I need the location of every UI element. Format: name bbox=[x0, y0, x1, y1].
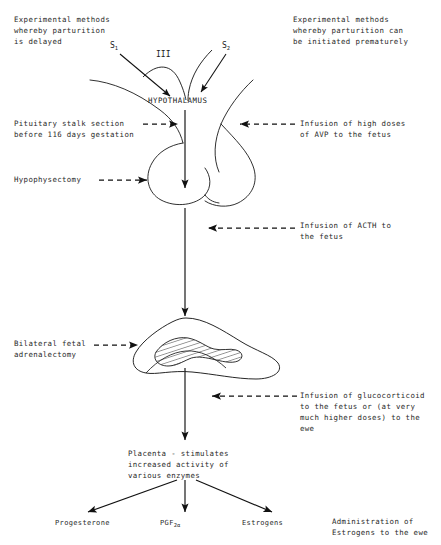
label-avp-infusion: Infusion of high doses of AVP to the fet… bbox=[300, 118, 406, 140]
label-stimulus-s2: S2 bbox=[222, 41, 230, 51]
label-estrogen-administration: Administration of Estrogens to the ewe bbox=[332, 516, 428, 538]
label-third-ventricle: III bbox=[156, 50, 170, 59]
label-hypophysectomy: Hypophysectomy bbox=[14, 174, 81, 185]
label-hypothalamus: HYPOTHALAMUS bbox=[148, 96, 207, 105]
header-left-experimental-methods: Experimental methods whereby parturition… bbox=[14, 14, 110, 47]
label-placenta: Placenta - stimulates increased activity… bbox=[128, 448, 229, 481]
left-intervention-arrows bbox=[94, 124, 178, 345]
label-output-estrogens: Estrogens bbox=[242, 518, 283, 529]
label-bilateral-fetal-adrenalectomy: Bilateral fetal adrenalectomy bbox=[14, 338, 86, 360]
stimulus-arrows bbox=[120, 50, 226, 101]
header-right-experimental-methods: Experimental methods whereby parturition… bbox=[293, 14, 408, 47]
label-glucocorticoid-infusion: Infusion of glucocorticoid to the fetus … bbox=[300, 390, 425, 434]
adrenal-gland bbox=[133, 318, 279, 379]
label-pituitary-stalk-section: Pituitary stalk section before 116 days … bbox=[14, 118, 134, 140]
label-output-progesterone: Progesterone bbox=[55, 518, 110, 529]
placenta-output-arrows bbox=[88, 480, 272, 512]
label-output-pgf2alpha: PGF2α bbox=[160, 518, 180, 531]
label-acth-infusion: Infusion of ACTH to the fetus bbox=[300, 220, 391, 242]
label-stimulus-s1: S1 bbox=[110, 41, 118, 51]
